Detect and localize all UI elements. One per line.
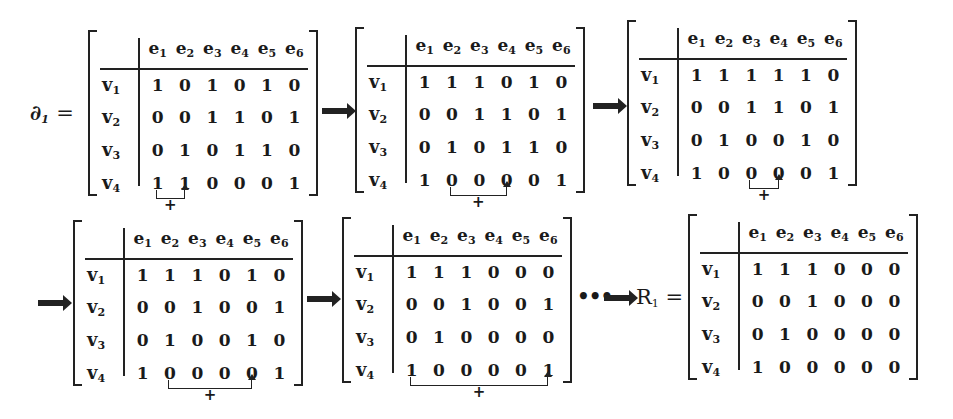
matrix-cell: 0 bbox=[826, 259, 853, 279]
column-label: e2 bbox=[161, 228, 179, 248]
column-label: e1 bbox=[402, 225, 420, 245]
column-header: e5 bbox=[520, 35, 547, 57]
matrix-cell: 0 bbox=[156, 297, 183, 317]
matrix-cell: 0 bbox=[535, 262, 562, 282]
matrix-cell: 0 bbox=[792, 163, 819, 183]
matrix-row: 010000 bbox=[398, 327, 562, 347]
column-label: e4 bbox=[830, 222, 848, 242]
matrix-cell: 1 bbox=[156, 265, 183, 285]
matrix-cell: 1 bbox=[425, 262, 452, 282]
row-label: v3 bbox=[87, 329, 121, 352]
column-label: e2 bbox=[715, 28, 733, 48]
matrix-cell: 1 bbox=[281, 173, 308, 193]
matrix-row: 111010 bbox=[129, 265, 293, 285]
partial-symbol: ∂ bbox=[30, 100, 41, 125]
column-header-divider bbox=[354, 255, 562, 257]
matrix-cell: 0 bbox=[480, 327, 507, 347]
matrix-cell: 1 bbox=[466, 104, 493, 124]
matrix-cell: 0 bbox=[438, 104, 465, 124]
column-header: e4 bbox=[480, 225, 507, 247]
column-header: e3 bbox=[738, 28, 765, 50]
matrix-cell: 1 bbox=[199, 75, 226, 95]
matrix-cell: 1 bbox=[771, 324, 798, 344]
matrix-row: 111110 bbox=[683, 65, 847, 85]
column-label: e5 bbox=[858, 222, 876, 242]
column-addition-bracket: + bbox=[749, 180, 778, 189]
column-header: e4 bbox=[765, 28, 792, 50]
column-header: e3 bbox=[799, 222, 826, 244]
matrix-cell: 0 bbox=[480, 294, 507, 314]
matrix-cell: 0 bbox=[548, 72, 575, 92]
row-header-divider bbox=[138, 38, 140, 186]
matrix-cell: 0 bbox=[411, 104, 438, 124]
matrix-row: 010000 bbox=[744, 324, 908, 344]
column-label: e2 bbox=[430, 225, 448, 245]
row-label: v3 bbox=[369, 136, 403, 159]
matrix-cell: 0 bbox=[520, 104, 547, 124]
left-bracket bbox=[355, 27, 364, 193]
row-label: v2 bbox=[641, 96, 675, 119]
matrix-cell: 0 bbox=[853, 259, 880, 279]
matrix-row: 010010 bbox=[129, 330, 293, 350]
column-headers: e1e2e3e4e5e6 bbox=[129, 228, 293, 250]
row-label: v1 bbox=[87, 264, 121, 287]
row-label: v2 bbox=[702, 290, 736, 313]
row-label: v2 bbox=[369, 103, 403, 126]
column-header: e6 bbox=[881, 222, 908, 244]
matrix-cell: 1 bbox=[738, 97, 765, 117]
matrix-cell: 1 bbox=[129, 265, 156, 285]
row-label: v3 bbox=[356, 326, 390, 349]
matrix-cell: 1 bbox=[683, 163, 710, 183]
matrix-cell: 1 bbox=[765, 65, 792, 85]
matrix-cell: 1 bbox=[683, 65, 710, 85]
matrix-cell: 0 bbox=[881, 324, 908, 344]
matrix-cell: 1 bbox=[253, 75, 280, 95]
matrix-cell: 0 bbox=[853, 357, 880, 377]
matrix-cell: 1 bbox=[548, 104, 575, 124]
matrix-cell: 0 bbox=[744, 324, 771, 344]
column-label: e1 bbox=[748, 222, 766, 242]
matrix-cell: 1 bbox=[266, 297, 293, 317]
column-label: e4 bbox=[484, 225, 502, 245]
plus-icon: + bbox=[204, 386, 217, 404]
matrix-cell: 0 bbox=[144, 107, 171, 127]
column-label: e5 bbox=[797, 28, 815, 48]
matrix-cell: 0 bbox=[398, 327, 425, 347]
column-header: e3 bbox=[466, 35, 493, 57]
column-label: e3 bbox=[803, 222, 821, 242]
matrix-cell: 0 bbox=[881, 291, 908, 311]
row-label: v4 bbox=[87, 362, 121, 385]
matrix-cell: 1 bbox=[156, 330, 183, 350]
left-bracket bbox=[627, 20, 636, 186]
matrix-cell: 0 bbox=[493, 72, 520, 92]
column-header: e6 bbox=[535, 225, 562, 247]
plus-icon: + bbox=[758, 186, 771, 204]
column-label: e6 bbox=[270, 228, 288, 248]
column-label: e2 bbox=[176, 38, 194, 58]
column-header: e4 bbox=[211, 228, 238, 250]
row-label: v3 bbox=[641, 129, 675, 152]
matrix-cell: 0 bbox=[266, 265, 293, 285]
matrix-cell: 1 bbox=[438, 72, 465, 92]
column-label: e3 bbox=[203, 38, 221, 58]
column-header: e4 bbox=[493, 35, 520, 57]
matrix-cell: 0 bbox=[820, 130, 847, 150]
column-header-divider bbox=[367, 65, 575, 67]
row-label: v1 bbox=[102, 74, 136, 97]
matrix-row: 101010 bbox=[144, 75, 308, 95]
matrix-cell: 1 bbox=[238, 330, 265, 350]
matrix-cell: 1 bbox=[765, 97, 792, 117]
matrix-cell: 1 bbox=[453, 294, 480, 314]
matrix-cell: 1 bbox=[226, 107, 253, 127]
right-bracket bbox=[848, 20, 857, 186]
matrix-cell: 1 bbox=[792, 65, 819, 85]
matrix-cell: 0 bbox=[826, 291, 853, 311]
column-label: e6 bbox=[552, 35, 570, 55]
matrix-cell: 1 bbox=[820, 163, 847, 183]
matrix-row: 100000 bbox=[744, 357, 908, 377]
matrix-cell: 0 bbox=[184, 330, 211, 350]
matrix-cell: 1 bbox=[171, 140, 198, 160]
matrix-cell: 0 bbox=[826, 324, 853, 344]
matrix-cell: 0 bbox=[744, 291, 771, 311]
column-header: e1 bbox=[683, 28, 710, 50]
